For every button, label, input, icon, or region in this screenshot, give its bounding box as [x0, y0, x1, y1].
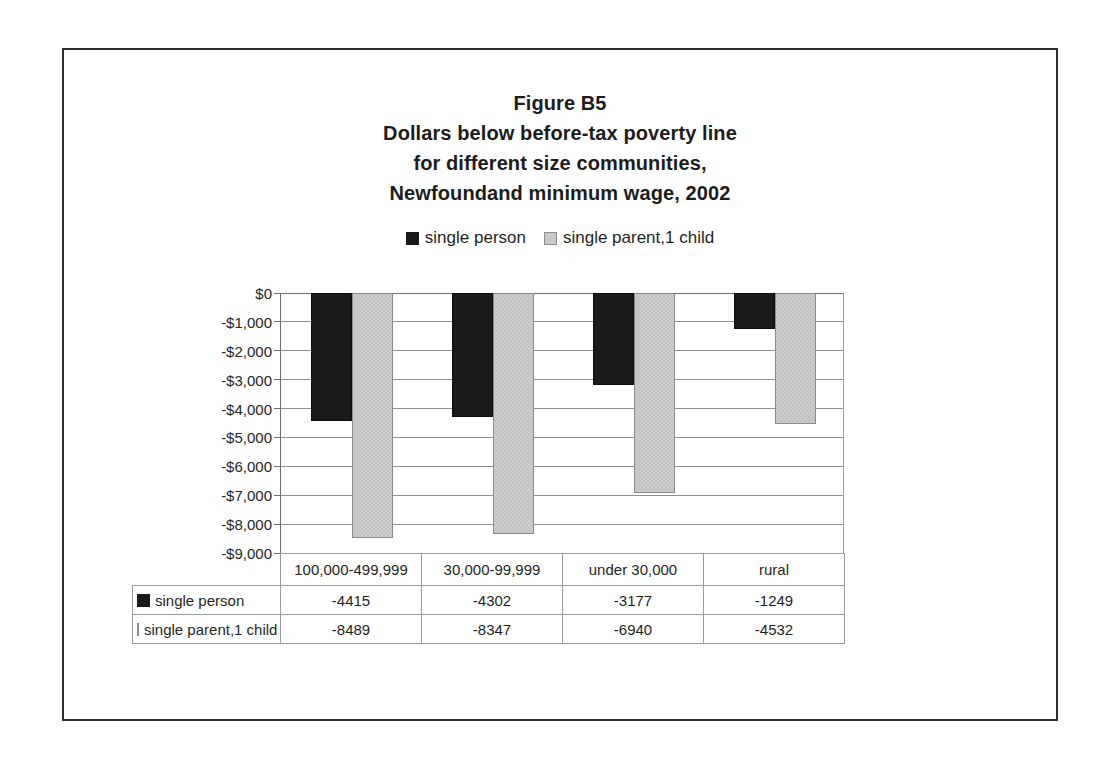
- light-square-swatch-icon: [544, 232, 557, 245]
- legend-label-single-person: single person: [425, 228, 526, 248]
- table-category-header-1: 30,000-99,999: [422, 554, 563, 586]
- bar-single-parent-1-child-0: [352, 293, 393, 538]
- y-axis-tickmark: [274, 379, 281, 380]
- table-cell-single-person-0: -4415: [281, 586, 422, 615]
- table-row-label-single-person: single person: [133, 586, 281, 615]
- table-cell-single-parent-3: -4532: [704, 615, 845, 644]
- y-axis-tickmark: [274, 495, 281, 496]
- y-axis-label: $0: [255, 285, 272, 302]
- legend-entry-single-parent: single parent,1 child: [544, 228, 714, 248]
- y-axis-label: -$7,000: [221, 487, 272, 504]
- data-table: 100,000-499,999 30,000-99,999 under 30,0…: [132, 553, 845, 644]
- y-axis-label: -$5,000: [221, 429, 272, 446]
- y-axis-tickmark: [274, 293, 281, 294]
- table-category-header-2: under 30,000: [563, 554, 704, 586]
- y-axis-tickmark: [274, 524, 281, 525]
- y-axis-label: -$6,000: [221, 458, 272, 475]
- bar-single-parent-1-child-1: [493, 293, 534, 534]
- dark-square-swatch-icon: [406, 232, 419, 245]
- table-row-label-single-parent: single parent,1 child: [133, 615, 281, 644]
- table-cell-single-person-2: -3177: [563, 586, 704, 615]
- table-row: single person -4415 -4302 -3177 -1249: [133, 586, 845, 615]
- bar-single-person-1: [452, 293, 493, 417]
- y-axis-tickmark: [274, 437, 281, 438]
- legend-entry-single-person: single person: [406, 228, 526, 248]
- y-axis-tickmark: [274, 350, 281, 351]
- chart-legend: single person single parent,1 child: [64, 228, 1056, 248]
- title-line-3: for different size communities,: [64, 148, 1056, 178]
- plot-wrapper: $0-$1,000-$2,000-$3,000-$4,000-$5,000-$6…: [280, 293, 844, 553]
- table-row: single parent,1 child -8489 -8347 -6940 …: [133, 615, 845, 644]
- table-header-row: 100,000-499,999 30,000-99,999 under 30,0…: [133, 554, 845, 586]
- table-cell-single-parent-2: -6940: [563, 615, 704, 644]
- figure-frame: Figure B5 Dollars below before-tax pover…: [62, 48, 1058, 721]
- table-corner-cell: [133, 554, 281, 586]
- y-axis-label: -$3,000: [221, 371, 272, 388]
- figure-title: Figure B5 Dollars below before-tax pover…: [64, 88, 1056, 208]
- title-line-2: Dollars below before-tax poverty line: [64, 118, 1056, 148]
- bar-single-person-0: [311, 293, 352, 421]
- data-table-body: 100,000-499,999 30,000-99,999 under 30,0…: [133, 554, 845, 644]
- bar-single-person-3: [734, 293, 775, 329]
- y-axis-label: -$8,000: [221, 516, 272, 533]
- dark-square-swatch-icon: [137, 594, 150, 607]
- table-cell-single-parent-0: -8489: [281, 615, 422, 644]
- table-category-header-3: rural: [704, 554, 845, 586]
- plot-area: $0-$1,000-$2,000-$3,000-$4,000-$5,000-$6…: [280, 293, 844, 553]
- y-axis-tickmark: [274, 466, 281, 467]
- bar-single-parent-1-child-2: [634, 293, 675, 493]
- table-cell-single-person-1: -4302: [422, 586, 563, 615]
- table-cell-single-parent-1: -8347: [422, 615, 563, 644]
- y-axis-label: -$4,000: [221, 400, 272, 417]
- y-axis-label: -$1,000: [221, 313, 272, 330]
- y-axis-tickmark: [274, 408, 281, 409]
- row-label-text: single parent,1 child: [144, 621, 277, 638]
- table-cell-single-person-3: -1249: [704, 586, 845, 615]
- light-square-swatch-icon: [137, 623, 139, 636]
- y-axis-tickmark: [274, 321, 281, 322]
- legend-label-single-parent: single parent,1 child: [563, 228, 714, 248]
- row-label-text: single person: [155, 592, 244, 609]
- title-line-4: Newfoundand minimum wage, 2002: [64, 178, 1056, 208]
- bar-single-parent-1-child-3: [775, 293, 816, 424]
- table-category-header-0: 100,000-499,999: [281, 554, 422, 586]
- y-axis-label: -$2,000: [221, 342, 272, 359]
- bar-single-person-2: [593, 293, 634, 385]
- title-line-1: Figure B5: [64, 88, 1056, 118]
